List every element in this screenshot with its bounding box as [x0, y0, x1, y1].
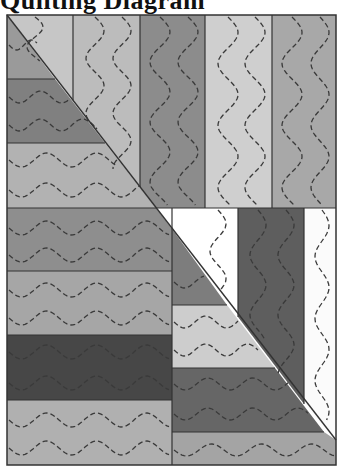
patch-lower-left-strip-2: [7, 271, 172, 335]
patch-lower-left-strip-4: [7, 400, 172, 465]
patch-top-col-3: [140, 15, 205, 208]
quilt-diagram: [0, 0, 340, 466]
patch-top-col-4: [205, 15, 272, 208]
patch-lower-right-strip-4: [172, 432, 336, 465]
patch-lower-left-strip-1: [7, 208, 172, 271]
patch-top-col-5: [272, 15, 336, 208]
